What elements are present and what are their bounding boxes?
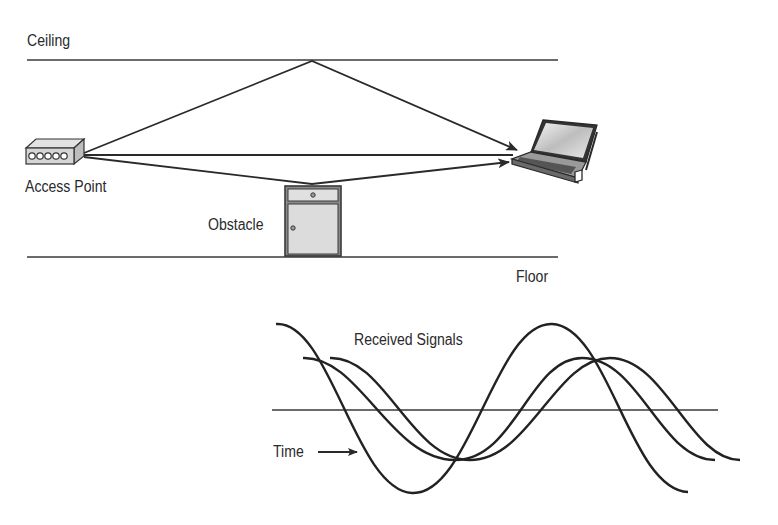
multipath-diagram [0,0,778,525]
obstacle-label: Obstacle [208,216,264,234]
signal-paths [84,61,517,184]
cabinet-icon [285,186,341,256]
floor-label: Floor [516,268,548,286]
obstacle-reflection-path [84,157,509,184]
laptop-icon [512,120,597,183]
access-point-icon [26,139,84,164]
ceiling-label: Ceiling [27,32,70,50]
time-label: Time [273,443,304,461]
waveform-1 [276,324,688,493]
received-signals-label: Received Signals [354,331,463,349]
received-waveforms [276,324,740,493]
access-point-label: Access Point [25,178,106,196]
ceiling-reflection-path [84,61,517,153]
